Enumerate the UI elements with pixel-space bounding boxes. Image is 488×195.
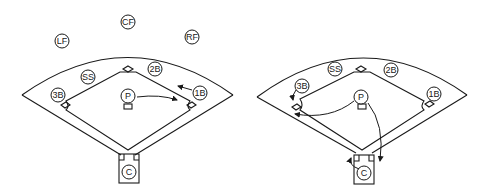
player-p: P xyxy=(121,89,135,103)
svg-text:2B: 2B xyxy=(385,65,396,75)
player-2b: 2B xyxy=(148,62,162,76)
svg-text:LF: LF xyxy=(57,36,68,46)
first-baseman-arrow xyxy=(178,86,192,90)
svg-text:C: C xyxy=(361,168,368,178)
foul-line-left xyxy=(257,97,356,153)
player-cf: CF xyxy=(121,15,135,29)
player-1b: 1B xyxy=(193,86,207,100)
foul-line-right xyxy=(372,95,467,153)
pitcher-rubber xyxy=(124,104,132,109)
baseball-defense-diagrams: LF CF RF SS 2B 3B 1B P C SS 2B 3B 1B P C xyxy=(0,0,488,195)
svg-text:1B: 1B xyxy=(428,89,439,99)
foul-line-right xyxy=(135,95,233,155)
player-c: C xyxy=(122,165,136,179)
svg-text:P: P xyxy=(125,91,131,101)
infield-diamond xyxy=(300,72,424,150)
second-base-icon xyxy=(356,66,366,72)
player-2b: 2B xyxy=(384,63,398,77)
second-base-icon xyxy=(123,66,133,72)
player-p: P xyxy=(354,90,368,104)
third-baseman-arrow xyxy=(293,90,296,100)
svg-text:P: P xyxy=(358,92,364,102)
left-diagram: LF CF RF SS 2B 3B 1B P C xyxy=(22,15,233,183)
pitcher-rubber xyxy=(358,104,366,109)
pitcher-to-third-arrow xyxy=(295,101,354,115)
player-3b: 3B xyxy=(51,88,65,102)
svg-text:C: C xyxy=(126,167,133,177)
pitcher-to-home-arrow xyxy=(368,103,381,161)
svg-text:CF: CF xyxy=(122,17,134,27)
svg-text:SS: SS xyxy=(329,64,341,74)
player-ss: SS xyxy=(328,62,342,76)
pitcher-arrow xyxy=(137,96,177,100)
foul-line-left xyxy=(22,95,121,155)
player-3b: 3B xyxy=(295,79,309,93)
player-lf: LF xyxy=(55,34,69,48)
svg-text:3B: 3B xyxy=(52,90,63,100)
third-base-icon xyxy=(292,104,301,110)
player-c: C xyxy=(357,166,371,180)
player-ss: SS xyxy=(81,70,95,84)
svg-text:SS: SS xyxy=(82,72,94,82)
third-base-icon xyxy=(61,102,70,108)
svg-text:RF: RF xyxy=(186,32,198,42)
right-diagram: SS 2B 3B 1B P C xyxy=(257,58,467,184)
first-base-icon xyxy=(425,101,434,107)
player-1b: 1B xyxy=(427,87,441,101)
catcher-backup-arrow xyxy=(350,158,359,169)
svg-text:1B: 1B xyxy=(194,88,205,98)
infield-diamond xyxy=(66,72,190,150)
svg-text:3B: 3B xyxy=(296,81,307,91)
player-rf: RF xyxy=(185,30,199,44)
svg-text:2B: 2B xyxy=(149,64,160,74)
